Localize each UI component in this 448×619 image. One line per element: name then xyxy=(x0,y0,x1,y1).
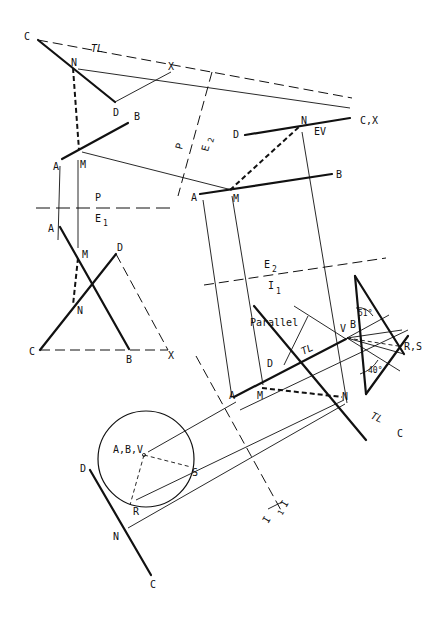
projector-r-s xyxy=(136,400,344,500)
label-d-aux1: D xyxy=(233,129,239,140)
label-b-front: B xyxy=(126,354,132,365)
svg-text:P: P xyxy=(173,142,185,151)
projector-n-pv xyxy=(128,404,345,528)
label-x-front: X xyxy=(168,350,174,361)
label-tl: TL xyxy=(91,43,103,54)
label-tl-aux2-2: TL xyxy=(369,410,385,425)
label-n-pv: N xyxy=(113,531,119,542)
svg-text:I: I xyxy=(268,280,274,291)
auxiliary-view-1: D N C,X EV A M B xyxy=(191,115,378,403)
label-v: V xyxy=(340,323,346,334)
label-abv: A,B,V xyxy=(113,444,143,455)
label-m: M xyxy=(80,159,86,170)
line-d-cx-ev xyxy=(245,118,350,135)
reference-line-i1-i2: I 1 I xyxy=(196,356,291,525)
label-n: N xyxy=(71,57,77,68)
point-view: A,B,V S R D N C xyxy=(80,400,345,590)
label-d-aux2: D xyxy=(267,358,273,369)
reference-line-e2-i1: E 2 I 1 xyxy=(204,258,386,296)
line-d-x-front xyxy=(116,254,168,350)
cone-base-circle xyxy=(98,411,194,507)
label-d-front: D xyxy=(117,242,123,253)
hidden-n-m xyxy=(73,68,79,150)
hidden-m-n-front xyxy=(73,258,78,305)
svg-text:1: 1 xyxy=(276,508,286,517)
label-d: D xyxy=(113,107,119,118)
svg-text:P: P xyxy=(95,192,101,203)
label-a-front: A xyxy=(48,223,54,234)
line-v-s xyxy=(144,455,191,467)
svg-text:1: 1 xyxy=(103,219,108,228)
label-n-aux1: N xyxy=(301,115,307,126)
line-d-c-pv xyxy=(90,470,151,575)
projector-n xyxy=(78,69,350,108)
projector-m-aux1 xyxy=(232,196,263,385)
label-a-aux1: A xyxy=(191,192,197,203)
svg-text:E: E xyxy=(95,213,101,224)
line-c-x-tl xyxy=(38,40,352,98)
label-cx-aux1: C,X xyxy=(360,115,378,126)
label-b-aux1: B xyxy=(336,169,342,180)
line-a-b xyxy=(62,123,128,159)
label-s: S xyxy=(192,467,198,478)
label-b-aux2: B xyxy=(350,319,356,330)
projector-a xyxy=(58,166,60,240)
cone-edge-2 xyxy=(355,276,366,394)
svg-text:2: 2 xyxy=(206,136,216,143)
label-parallel: Parallel xyxy=(250,317,298,328)
label-r: R xyxy=(133,506,140,517)
label-x: X xyxy=(168,61,174,72)
label-a: A xyxy=(53,161,59,172)
svg-text:I: I xyxy=(278,498,291,509)
line-c-d-front xyxy=(40,254,116,350)
svg-text:E: E xyxy=(199,144,211,153)
front-view: A M D N C B X xyxy=(29,223,174,365)
label-tl-aux2-1: TL xyxy=(299,342,315,357)
label-ev: EV xyxy=(314,126,326,137)
line-c-d xyxy=(38,40,115,102)
descriptive-geometry-drawing: C TL N X D B A M P E 1 P E 2 A M D N C B… xyxy=(0,0,448,619)
label-c-aux2: C xyxy=(397,428,403,439)
reference-line-p-e1: P E 1 xyxy=(36,192,172,228)
label-a-aux2: A xyxy=(229,390,235,401)
label-c-pv: C xyxy=(150,579,156,590)
label-angle-51: 51° xyxy=(358,309,372,318)
hidden-m-n-aux2 xyxy=(262,388,342,397)
label-n-front: N xyxy=(77,305,83,316)
label-m-aux2: M xyxy=(257,390,263,401)
label-c: C xyxy=(24,31,30,42)
label-d-pv: D xyxy=(80,463,86,474)
projector-m xyxy=(82,152,232,190)
reference-line-p-e2: P E 2 xyxy=(173,72,216,196)
label-c-front: C xyxy=(29,346,35,357)
label-b: B xyxy=(134,111,140,122)
label-rs: R,S xyxy=(404,341,422,352)
svg-text:2: 2 xyxy=(272,265,277,274)
line-parallel-ref xyxy=(294,306,346,339)
label-angle-40: 40° xyxy=(368,366,382,375)
line-d-x xyxy=(115,72,171,102)
projector-a-aux1 xyxy=(203,200,232,398)
label-m-front: M xyxy=(82,249,88,260)
svg-text:E: E xyxy=(264,259,270,270)
svg-text:I: I xyxy=(260,514,273,525)
label-m-aux1: M xyxy=(233,193,239,204)
svg-text:1: 1 xyxy=(276,287,281,296)
